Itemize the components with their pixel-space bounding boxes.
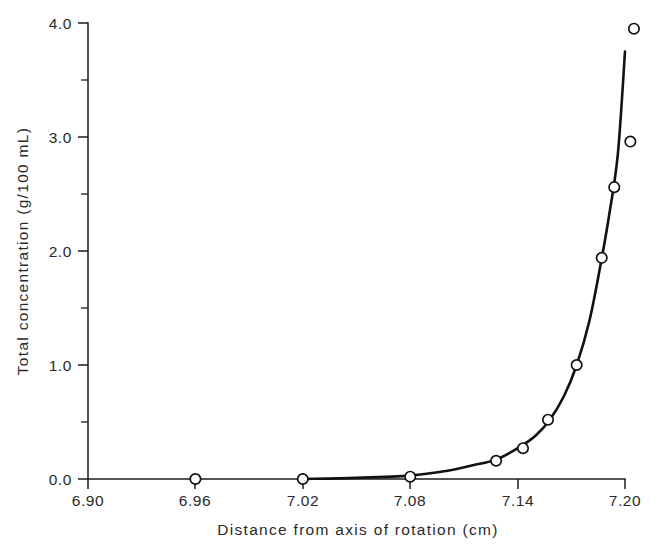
- scatter-line-chart: 0.0 1.0 2.0 3.0 4.0 6.90 6.96 7.02 7.08 …: [0, 0, 665, 546]
- figure-container: 0.0 1.0 2.0 3.0 4.0 6.90 6.96 7.02 7.08 …: [0, 0, 665, 546]
- data-point-marker: [298, 474, 308, 484]
- x-tick-label-0: 6.90: [72, 492, 105, 509]
- data-point-marker: [597, 253, 607, 263]
- x-tick-label-2: 7.02: [287, 492, 320, 509]
- x-axis-title: Distance from axis of rotation (cm): [217, 521, 499, 538]
- y-axis-title: Total concentration (g/100 mL): [14, 127, 31, 375]
- data-point-marker: [491, 456, 501, 466]
- x-tick-label-5: 7.20: [609, 492, 642, 509]
- y-tick-label-0: 0.0: [49, 471, 72, 488]
- data-point-marker: [543, 415, 553, 425]
- y-tick-label-2: 2.0: [49, 243, 72, 260]
- data-point-marker: [609, 182, 619, 192]
- fitted-curve: [303, 52, 625, 480]
- y-tick-label-4: 4.0: [49, 15, 72, 32]
- data-point-marker: [518, 443, 528, 453]
- data-point-marker: [625, 136, 635, 146]
- x-axis-major-ticks: [88, 479, 625, 489]
- x-tick-label-3: 7.08: [394, 492, 427, 509]
- x-tick-label-1: 6.96: [179, 492, 212, 509]
- y-axis-major-ticks: [78, 23, 88, 479]
- data-point-marker: [405, 472, 415, 482]
- data-point-marker: [629, 24, 639, 34]
- x-tick-label-4: 7.14: [502, 492, 535, 509]
- data-point-marker: [190, 474, 200, 484]
- data-point-markers: [190, 24, 639, 485]
- y-tick-label-3: 3.0: [49, 129, 72, 146]
- y-tick-label-1: 1.0: [49, 357, 72, 374]
- data-point-marker: [571, 360, 581, 370]
